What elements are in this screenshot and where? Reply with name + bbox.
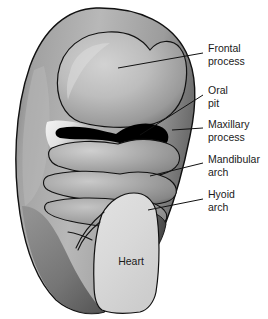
label-mandibular-arch: Mandibular arch	[208, 153, 260, 178]
embryo-diagram: Heart Frontal process Oral pit Maxillary…	[0, 0, 268, 319]
label-hyoid-arch-line2: arch	[208, 201, 229, 213]
diagram-canvas: Heart Frontal process Oral pit Maxillary…	[0, 0, 268, 319]
label-mandibular-arch-line2: arch	[208, 166, 229, 178]
label-oral-pit-line2: pit	[208, 97, 219, 109]
label-maxillary-process-line2: process	[208, 131, 245, 143]
label-frontal-process-line1: Frontal	[208, 42, 241, 54]
label-hyoid-arch-line1: Hyoid	[208, 188, 235, 200]
heart-bulge: Heart	[94, 193, 159, 313]
label-frontal-process-line2: process	[208, 55, 245, 67]
label-maxillary-process: Maxillary process	[208, 118, 250, 143]
label-oral-pit-line1: Oral	[208, 84, 228, 96]
label-oral-pit: Oral pit	[208, 84, 228, 109]
label-maxillary-process-line1: Maxillary	[208, 118, 250, 130]
label-mandibular-arch-line1: Mandibular	[208, 153, 260, 165]
heart-shape	[94, 193, 159, 313]
heart-label: Heart	[118, 255, 144, 267]
label-frontal-process: Frontal process	[208, 42, 245, 67]
label-hyoid-arch: Hyoid arch	[208, 188, 235, 213]
frontal-process-shape	[57, 32, 186, 127]
frontal-process-lobe	[57, 32, 186, 127]
